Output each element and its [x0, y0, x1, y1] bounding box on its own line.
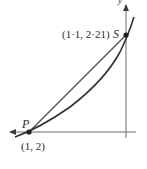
point-p-label: P	[21, 117, 30, 131]
point-p-coords: (1, 2)	[21, 140, 45, 153]
secant-diagram: y (1·1, 2·21) S P (1, 2)	[0, 0, 147, 169]
point-s	[123, 32, 128, 37]
point-s-coords: (1·1, 2·21)	[62, 28, 110, 41]
y-axis-label: y	[117, 0, 122, 5]
point-s-label: S	[113, 27, 119, 41]
chord-ps	[29, 35, 126, 132]
